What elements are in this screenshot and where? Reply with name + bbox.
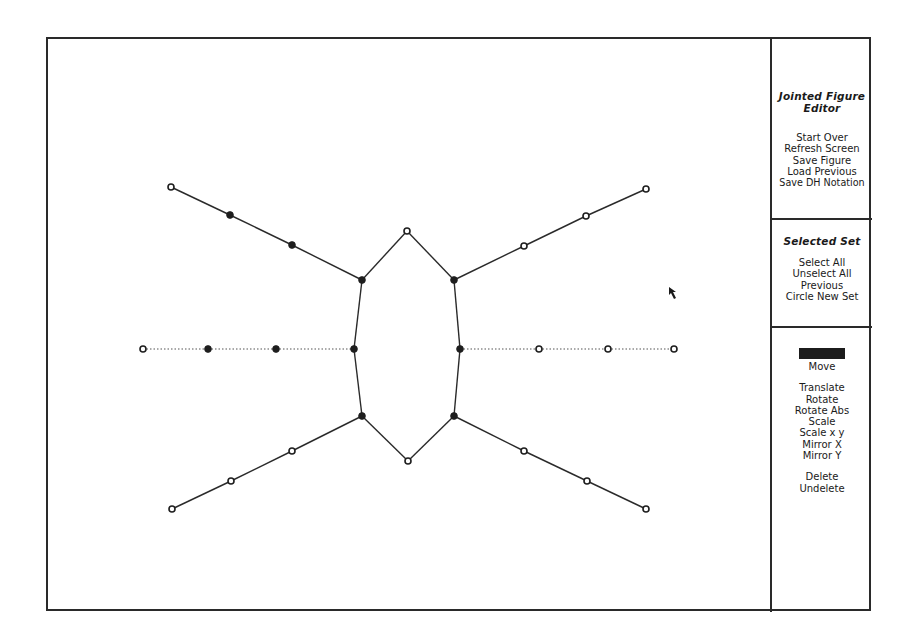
menu-unselect-all[interactable]: Unselect All [772, 268, 872, 279]
menu-start-over[interactable]: Start Over [772, 132, 872, 143]
link [407, 231, 454, 280]
link [362, 231, 407, 280]
menu-scale[interactable]: Scale [772, 416, 872, 427]
link [292, 245, 362, 280]
menu-load-previous[interactable]: Load Previous [772, 166, 872, 177]
joint-lr2[interactable] [521, 448, 527, 454]
joint-lr3[interactable] [451, 413, 458, 420]
menu-save-dh-notation[interactable]: Save DH Notation [772, 177, 872, 188]
menu-select-all[interactable]: Select All [772, 257, 872, 268]
link [408, 416, 454, 461]
menu-delete[interactable]: Delete [772, 471, 872, 482]
joint-ll1[interactable] [228, 478, 234, 484]
link [354, 280, 362, 349]
joint-ur3[interactable] [451, 277, 458, 284]
link [454, 280, 460, 349]
menu-circle-new-set[interactable]: Circle New Set [772, 291, 872, 302]
joint-ml3[interactable] [351, 346, 358, 353]
command-panel: Jointed Figure Editor Start Over Refresh… [770, 37, 872, 612]
link [524, 451, 587, 481]
menu-highlighted-operation[interactable]: Stretch [799, 348, 845, 359]
app-title-line-1: Jointed Figure [772, 90, 872, 102]
joint-lr0[interactable] [643, 506, 649, 512]
menu-translate[interactable]: Translate [772, 382, 872, 393]
figure-canvas[interactable] [46, 37, 772, 612]
joint-ur0[interactable] [643, 186, 649, 192]
selected-set-heading: Selected Set [772, 235, 872, 247]
link [354, 349, 362, 416]
joint-top[interactable] [404, 228, 410, 234]
joint-ur2[interactable] [521, 243, 527, 249]
menu-rotate-abs[interactable]: Rotate Abs [772, 405, 872, 416]
menu-mirror-x[interactable]: Mirror X [772, 439, 872, 450]
joint-mr2[interactable] [536, 346, 542, 352]
panel-section-file: Jointed Figure Editor Start Over Refresh… [772, 37, 872, 220]
link [454, 416, 524, 451]
joint-ml0[interactable] [140, 346, 146, 352]
link [524, 216, 586, 246]
link [454, 246, 524, 280]
menu-rotate[interactable]: Rotate [772, 394, 872, 405]
menu-scale-x-y[interactable]: Scale x y [772, 427, 872, 438]
link [231, 451, 292, 481]
joint-ml2[interactable] [273, 346, 280, 353]
joint-ll3[interactable] [359, 413, 366, 420]
joints[interactable] [140, 184, 677, 512]
joint-bot[interactable] [405, 458, 411, 464]
link [454, 349, 460, 416]
link [292, 416, 362, 451]
menu-previous[interactable]: Previous [772, 280, 872, 291]
joint-ul0[interactable] [168, 184, 174, 190]
joint-lr1[interactable] [584, 478, 590, 484]
link [172, 481, 231, 509]
link [362, 416, 408, 461]
joint-ll2[interactable] [289, 448, 295, 454]
mouse-pointer-icon [668, 286, 680, 306]
joint-mr3[interactable] [457, 346, 464, 353]
link [587, 481, 646, 509]
joint-ul2[interactable] [289, 242, 296, 249]
joint-ur1[interactable] [583, 213, 589, 219]
menu-mirror-y[interactable]: Mirror Y [772, 450, 872, 461]
panel-section-operations: Stretch Move Translate Rotate Rotate Abs… [772, 328, 872, 612]
joint-ml1[interactable] [205, 346, 212, 353]
link [586, 189, 646, 216]
link [230, 215, 292, 245]
joint-ll0[interactable] [169, 506, 175, 512]
joint-ul3[interactable] [359, 277, 366, 284]
link [171, 187, 230, 215]
joint-mr1[interactable] [605, 346, 611, 352]
app-title-line-2: Editor [772, 102, 872, 114]
menu-move[interactable]: Move [772, 361, 872, 372]
panel-section-selected-set: Selected Set Select All Unselect All Pre… [772, 220, 872, 328]
menu-undelete[interactable]: Undelete [772, 483, 872, 494]
joint-mr0[interactable] [671, 346, 677, 352]
joint-ul1[interactable] [227, 212, 234, 219]
screen: Jointed Figure Editor Start Over Refresh… [0, 0, 918, 637]
jointed-figure[interactable] [46, 37, 772, 612]
menu-refresh-screen[interactable]: Refresh Screen [772, 143, 872, 154]
menu-save-figure[interactable]: Save Figure [772, 155, 872, 166]
